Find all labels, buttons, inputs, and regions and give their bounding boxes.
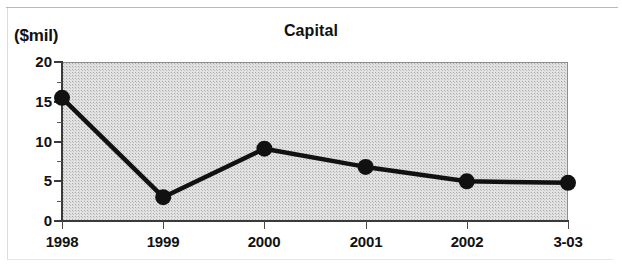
x-tick-label: 1999	[118, 233, 208, 250]
y-tick-major	[54, 101, 62, 103]
y-tick-major	[54, 180, 62, 182]
y-tick-label: 5	[4, 172, 52, 189]
chart-figure: ($mil) Capital 05101520 1998199920002001…	[0, 0, 622, 266]
y-tick-label: 20	[4, 53, 52, 70]
y-tick-minor	[57, 122, 62, 123]
x-tick-label: 1998	[17, 233, 107, 250]
y-tick-minor	[57, 161, 62, 162]
page-rule-top	[6, 7, 618, 8]
x-tick	[568, 221, 569, 229]
y-tick-minor	[57, 82, 62, 83]
x-tick	[62, 221, 63, 229]
x-tick	[264, 221, 265, 229]
x-tick-label: 3-03	[523, 233, 613, 250]
y-tick-minor	[57, 201, 62, 202]
chart-title: Capital	[0, 22, 622, 40]
page-rule-bottom	[7, 259, 613, 260]
x-tick-label: 2002	[422, 233, 512, 250]
x-axis-line	[61, 220, 569, 222]
x-tick	[467, 221, 468, 229]
y-tick-major	[54, 61, 62, 63]
x-tick	[163, 221, 164, 229]
y-tick-label: 10	[4, 133, 52, 150]
x-tick	[366, 221, 367, 229]
plot-area	[62, 62, 568, 221]
y-tick-major	[54, 141, 62, 143]
y-tick-label: 15	[4, 93, 52, 110]
x-tick-label: 2000	[219, 233, 309, 250]
y-tick-major	[54, 220, 62, 222]
y-axis-ticks: 05101520	[0, 0, 52, 266]
x-tick-label: 2001	[321, 233, 411, 250]
y-tick-label: 0	[4, 212, 52, 229]
